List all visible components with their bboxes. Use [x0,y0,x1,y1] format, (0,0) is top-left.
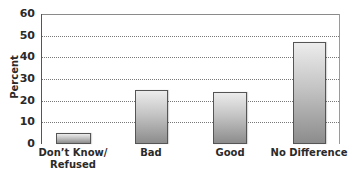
gridline [42,36,339,37]
plot-right-border [339,14,340,144]
x-tick-label: Bad [140,147,162,159]
x-tick-label: No Difference [271,147,348,159]
y-tick-label: 30 [5,73,35,85]
y-tick-label: 20 [5,95,35,107]
x-tick-label-line: No Difference [271,147,348,159]
bar [56,133,91,144]
x-tick-label-line: Good [215,147,244,159]
plot-top-border [41,14,340,15]
bar [135,90,168,144]
plot-area [41,14,340,144]
y-tick-label: 40 [5,51,35,63]
y-tick-label: 10 [5,116,35,128]
y-tick-label: 50 [5,30,35,42]
x-tick-label-line: Don’t Know/ [39,147,108,159]
y-tick-label: 60 [5,8,35,20]
x-tick-label: Don’t Know/Refused [39,147,108,171]
y-axis-line [41,14,42,144]
x-tick-label-line: Refused [39,159,108,171]
bar-chart: Percent 0102030405060 Don’t Know/Refused… [0,0,357,177]
y-tick-label: 0 [5,138,35,150]
bar [213,92,247,144]
x-tick-label: Good [215,147,244,159]
x-tick-label-line: Bad [140,147,162,159]
bar [293,42,326,144]
